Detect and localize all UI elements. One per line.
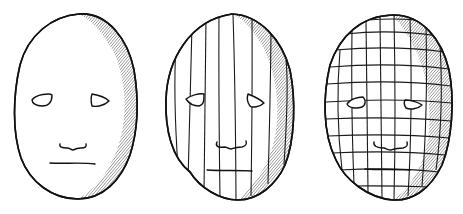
mouth xyxy=(207,170,252,171)
three-masks-illustration xyxy=(0,0,463,214)
mouth xyxy=(365,169,410,170)
mask-grid xyxy=(325,15,452,200)
mask-plain xyxy=(15,14,138,199)
mask-vertical-lines xyxy=(166,14,294,200)
